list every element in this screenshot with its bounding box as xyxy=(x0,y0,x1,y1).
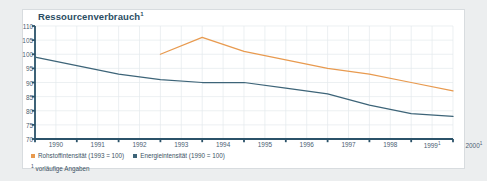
footnote-text: vorläufige Angaben xyxy=(36,165,90,172)
chart-screenshot: Ressourcenverbrauch1 7075808590951001051… xyxy=(0,0,487,181)
x-axis-label-footnote-marker: 1 xyxy=(480,141,483,146)
x-axis-tick-label: 1993 xyxy=(174,141,188,148)
legend-swatch-icon-rohstoffintensitaet xyxy=(31,154,35,158)
footnote-marker: 1 xyxy=(31,163,34,169)
legend-label-energieintensitaet: Energieintensität (1990 = 100) xyxy=(140,152,225,159)
x-axis-tick-label: 1996 xyxy=(300,141,314,148)
legend-item-energieintensitaet: Energieintensität (1990 = 100) xyxy=(133,152,225,159)
x-axis-tick-label: 1991 xyxy=(91,141,105,148)
chart-footnote: 1 vorläufige Angaben xyxy=(31,163,89,172)
x-axis-tick-label: 1992 xyxy=(132,141,146,148)
legend-item-rohstoffintensitaet: Rohstoffintensität (1993 = 100) xyxy=(31,152,124,159)
chart-legend: Rohstoffintensität (1993 = 100) Energiei… xyxy=(31,152,225,159)
plot-area xyxy=(35,26,453,139)
x-axis-tick-label: 1995 xyxy=(258,141,272,148)
legend-swatch-icon-energieintensitaet xyxy=(133,154,137,158)
x-axis-tick-label: 1998 xyxy=(383,141,397,148)
x-axis-label-footnote-marker: 1 xyxy=(438,141,441,146)
legend-label-rohstoffintensitaet: Rohstoffintensität (1993 = 100) xyxy=(38,152,124,159)
x-axis-tick-label: 20001 xyxy=(466,141,483,149)
chart-canvas xyxy=(35,26,453,139)
x-axis-tick-label: 1990 xyxy=(49,141,63,148)
x-axis-tick-label: 19991 xyxy=(424,141,441,149)
x-axis-tick-label: 1997 xyxy=(341,141,355,148)
x-axis-tick-label: 1994 xyxy=(216,141,230,148)
